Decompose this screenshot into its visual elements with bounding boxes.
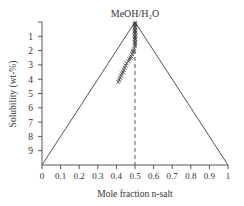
reference-lines	[42, 22, 228, 165]
chart-svg: MeOH/H₂O 12345678900.10.20.30.40.50.60.7…	[0, 0, 244, 206]
x-tick-label: 0.2	[74, 171, 85, 181]
y-tick-label: 8	[28, 132, 33, 142]
data-points	[116, 21, 137, 84]
y-tick-label: 7	[28, 118, 33, 128]
y-tick-label: 5	[28, 89, 33, 99]
y-tick-label: 2	[28, 46, 33, 56]
chart: MeOH/H₂O 12345678900.10.20.30.40.50.60.7…	[0, 0, 244, 206]
x-tick-label: 0.9	[204, 171, 216, 181]
y-tick-label: 1	[28, 32, 33, 42]
y-tick-label: 6	[28, 103, 33, 113]
axes: 12345678900.10.20.30.40.50.60.70.80.91	[28, 22, 230, 181]
y-axis-label: Solubility (wt-%)	[8, 61, 19, 128]
x-tick-label: 1	[226, 171, 231, 181]
y-tick-label: 4	[28, 75, 33, 85]
chart-title: MeOH/H₂O	[111, 8, 159, 19]
y-tick-label: 9	[28, 146, 33, 156]
y-tick-label: 3	[28, 60, 33, 70]
x-tick-label: 0.7	[167, 171, 179, 181]
x-tick-label: 0.6	[148, 171, 160, 181]
x-tick-label: 0.1	[55, 171, 66, 181]
x-axis-label: Mole fraction n-salt	[97, 189, 173, 199]
x-tick-label: 0.8	[185, 171, 197, 181]
x-tick-label: 0	[40, 171, 45, 181]
x-tick-label: 0.3	[92, 171, 104, 181]
x-tick-label: 0.5	[129, 171, 141, 181]
x-tick-label: 0.4	[111, 171, 123, 181]
